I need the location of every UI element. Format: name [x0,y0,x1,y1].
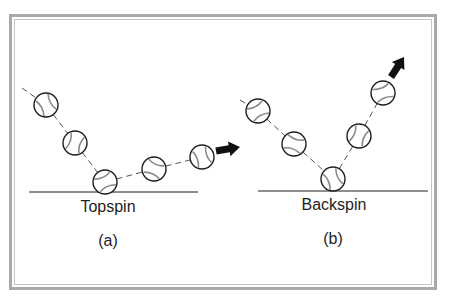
panel-a-caption: (a) [98,232,118,250]
tennis-ball-icon [282,129,306,159]
tennis-ball-icon [321,167,345,191]
trajectory-dash [53,115,67,134]
topspin-label: Topspin [80,198,135,216]
direction-arrow-icon [388,57,404,79]
trajectory-dash [166,160,191,166]
tennis-ball-icon [93,170,117,194]
backspin-label: Backspin [302,196,367,214]
trajectory-dash [303,152,324,171]
tennis-ball-icon [344,124,374,148]
trajectory-dash [22,88,36,98]
trajectory-dash [240,100,248,105]
tennis-ball-icon [371,81,395,105]
tennis-ball-icon [60,131,90,155]
tennis-ball-icon [34,93,58,117]
direction-arrow-icon [215,141,240,156]
trajectory-dash [365,103,377,125]
spin-diagram [0,0,452,305]
tennis-ball-icon [246,99,270,123]
trajectory-dash [82,153,97,173]
trajectory-dash [339,146,353,168]
trajectory-dash [117,172,143,179]
tennis-ball-icon [142,154,166,184]
topspin-panel [22,88,240,194]
trajectory-dash [267,119,285,136]
tennis-ball-icon [190,145,214,169]
panel-b-caption: (b) [323,230,343,248]
backspin-panel [240,57,428,191]
